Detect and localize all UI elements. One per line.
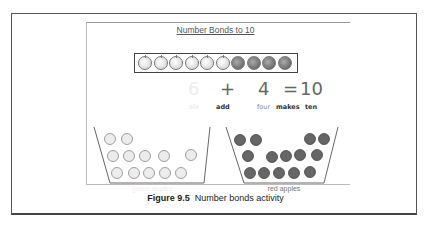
red-apple-icon xyxy=(247,56,261,70)
green-apple-icon xyxy=(138,56,152,70)
green-apple-icon xyxy=(216,56,230,70)
green-apple-icon xyxy=(200,56,214,70)
equation-b: 4 xyxy=(258,78,269,99)
word-add: add xyxy=(216,103,230,111)
word-ten: ten xyxy=(305,103,317,111)
green-apple-icon xyxy=(169,56,183,70)
figure-number: Figure 9.5 xyxy=(147,193,190,203)
red-apple-icon xyxy=(278,56,292,70)
equation-result: 10 xyxy=(300,78,323,99)
green-apple-icon xyxy=(154,56,168,70)
green-apple-icon xyxy=(185,56,199,70)
green-apples-label: green apples xyxy=(92,185,212,192)
red-apple-icon xyxy=(231,56,245,70)
equation-equals: = xyxy=(283,78,298,99)
word-a: six xyxy=(189,103,199,111)
equation-a: 6 xyxy=(188,78,199,99)
equation-plus: + xyxy=(220,78,235,99)
figure-caption: Figure 9.5 Number bonds activity xyxy=(0,193,431,203)
red-apples-label: red apples xyxy=(224,185,344,192)
ten-frame xyxy=(134,53,298,73)
activity-title: Number Bonds to 10 xyxy=(0,25,431,35)
figure-caption-text: Number bonds activity xyxy=(195,193,284,203)
word-makes: makes xyxy=(276,103,300,111)
red-apples-basket xyxy=(224,125,344,185)
word-b: four xyxy=(257,103,270,111)
green-apples-basket xyxy=(92,125,212,185)
red-apple-icon xyxy=(262,56,276,70)
